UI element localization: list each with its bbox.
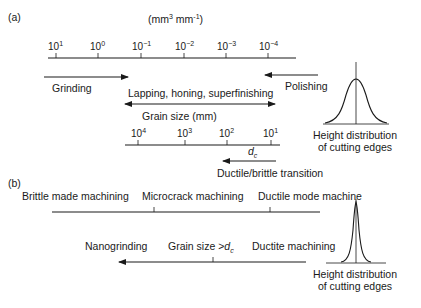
tick-label: 10−4	[259, 40, 278, 52]
removal-rate-units: (mm3 mm-1)	[148, 13, 203, 25]
height-distribution-curve-a	[323, 62, 389, 124]
polishing-label: Polishing	[285, 80, 328, 92]
distribution-label-a-line1: Height distribution	[313, 129, 397, 141]
nanogrinding-label: Nanogrinding	[85, 240, 148, 252]
machining-mode-axis	[52, 207, 320, 212]
tick-label: 10−1	[132, 40, 151, 52]
lapping-label: Lapping, honing, superfinishing	[128, 87, 274, 99]
brittle-mode-label: Brittle made machining	[22, 190, 129, 202]
distribution-label-b-line2: of cutting edges	[318, 280, 392, 292]
tick-label: 10−3	[217, 40, 236, 52]
machining-process-diagram: (a) (mm3 mm-1) 101 100 10−1 10−2 10−3 10…	[0, 0, 421, 308]
microcrack-label: Microcrack machining	[142, 190, 244, 202]
tick-label: 101	[263, 127, 278, 139]
ductile-mode-label: Ductile mode machine	[258, 190, 362, 202]
distribution-label-a-line2: of cutting edges	[318, 141, 392, 153]
grain-size-gt-dc-label: Grain size >dc	[168, 240, 234, 254]
tick-label: 103	[177, 127, 192, 139]
dc-label: dc	[248, 145, 258, 159]
grinding-label: Grinding	[52, 82, 92, 94]
grain-size-axis: 104 103 102 101	[125, 127, 280, 145]
ductile-machining-label: Ductite machining	[252, 240, 336, 252]
panel-a-label: (a)	[8, 11, 21, 23]
distribution-label-b-line1: Height distribution	[313, 268, 397, 280]
removal-rate-axis: 101 100 10−1 10−2 10−3 10−4	[48, 40, 296, 58]
tick-label: 101	[48, 40, 63, 52]
panel-a: (a) (mm3 mm-1) 101 100 10−1 10−2 10−3 10…	[8, 11, 397, 179]
height-distribution-curve-b	[326, 199, 386, 263]
panel-b: (b) Brittle made machining Microcrack ma…	[8, 177, 397, 292]
panel-b-label: (b)	[8, 177, 21, 189]
tick-label: 102	[219, 127, 234, 139]
tick-label: 100	[90, 40, 105, 52]
grain-size-title: Grain size (mm)	[142, 110, 217, 122]
tick-label: 10−2	[175, 40, 194, 52]
tick-label: 104	[131, 127, 146, 139]
transition-label: Ductile/brittle transition	[217, 167, 323, 179]
